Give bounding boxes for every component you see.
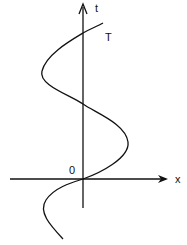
origin-label: 0 (69, 165, 75, 176)
period-label: T (105, 32, 112, 43)
diagram-canvas (0, 0, 187, 245)
worldline-curve (42, 23, 128, 239)
t-axis-label: t (95, 3, 98, 14)
x-axis-label: x (175, 174, 181, 185)
